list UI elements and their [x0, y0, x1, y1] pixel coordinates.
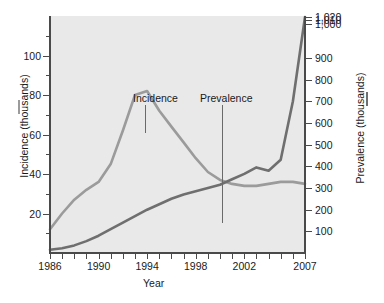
x-tick-mark — [159, 254, 160, 259]
right-tick-label-800: 800 — [315, 75, 333, 85]
left-minor-tick — [46, 115, 49, 116]
x-tick-mark — [74, 254, 75, 259]
right-tick-label-100: 100 — [315, 226, 333, 236]
right-tick-mark — [306, 166, 312, 167]
right-axis-spine — [304, 16, 306, 254]
left-tick-label-80: 80 — [29, 90, 41, 100]
right-axis-title: Prevalence (thousands) — [354, 53, 366, 203]
chart-figure: 20406080100 1002003004005006007008009001… — [0, 0, 384, 303]
incidence-annotation-label: Incidence — [133, 92, 178, 104]
x-tick-mark — [208, 254, 209, 259]
left-tick-label-60: 60 — [29, 130, 41, 140]
incidence-line — [50, 91, 305, 229]
right-tick-mark — [306, 188, 312, 189]
x-tick-mark — [269, 254, 270, 259]
x-tick-mark — [123, 254, 124, 259]
x-tick-mark — [196, 254, 197, 259]
x-tick-mark — [244, 254, 245, 259]
left-tick-mark — [43, 135, 49, 136]
right-tick-mark — [306, 123, 312, 124]
right-tick-label-200: 200 — [315, 205, 333, 215]
left-minor-tick — [46, 154, 49, 155]
left-minor-tick — [46, 194, 49, 195]
x-tick-mark — [256, 254, 257, 259]
x-tick-label-1998: 1998 — [176, 261, 216, 272]
x-tick-mark — [62, 254, 63, 259]
right-tick-mark — [306, 58, 312, 59]
right-tick-mark — [306, 17, 312, 18]
prevalence-annotation-label: Prevalence — [200, 92, 253, 104]
x-tick-label-1994: 1994 — [127, 261, 167, 272]
x-tick-mark — [305, 254, 306, 259]
left-tick-mark — [43, 56, 49, 57]
x-tick-mark — [171, 254, 172, 259]
left-minor-tick — [46, 75, 49, 76]
incidence-annotation-leader — [145, 105, 146, 133]
right-tick-mark — [306, 145, 312, 146]
x-tick-mark — [50, 254, 51, 259]
x-tick-mark — [220, 254, 221, 259]
left-tick-label-20: 20 — [29, 209, 41, 219]
x-tick-mark — [135, 254, 136, 259]
x-tick-label-2007: 2007 — [285, 261, 325, 272]
x-axis-title: Year — [143, 277, 164, 289]
x-tick-label-1990: 1990 — [79, 261, 119, 272]
left-minor-tick — [46, 36, 49, 37]
incidence-legend-swatch — [18, 100, 20, 114]
x-tick-mark — [147, 254, 148, 259]
right-tick-label-300: 300 — [315, 183, 333, 193]
right-tick-label-600: 600 — [315, 118, 333, 128]
x-tick-label-2002: 2002 — [224, 261, 264, 272]
right-tick-label-400: 400 — [315, 161, 333, 171]
x-tick-mark — [232, 254, 233, 259]
bottom-axis-spine — [49, 252, 306, 254]
left-tick-label-40: 40 — [29, 169, 41, 179]
x-tick-mark — [281, 254, 282, 259]
left-tick-mark — [43, 95, 49, 96]
x-tick-mark — [293, 254, 294, 259]
x-tick-mark — [99, 254, 100, 259]
left-axis-spine — [49, 16, 51, 254]
left-minor-tick — [46, 233, 49, 234]
right-tick-label-900: 900 — [315, 53, 333, 63]
right-tick-mark — [306, 80, 312, 81]
right-tick-label-700: 700 — [315, 96, 333, 106]
right-tick-label-500: 500 — [315, 140, 333, 150]
x-tick-mark — [86, 254, 87, 259]
left-tick-mark — [43, 214, 49, 215]
left-tick-mark — [43, 174, 49, 175]
left-axis-title: Incidence (thousands) — [18, 51, 30, 201]
x-tick-mark — [184, 254, 185, 259]
right-tick-label-1020: 1,020 — [315, 12, 341, 22]
x-tick-mark — [111, 254, 112, 259]
series-lines — [0, 0, 384, 303]
right-tick-mark — [306, 24, 312, 25]
right-tick-mark — [306, 210, 312, 211]
right-tick-mark — [306, 231, 312, 232]
prevalence-legend-swatch — [366, 92, 368, 106]
right-tick-mark — [306, 20, 312, 21]
prevalence-annotation-leader — [222, 105, 223, 223]
right-tick-mark — [306, 101, 312, 102]
x-tick-label-1986: 1986 — [30, 261, 70, 272]
